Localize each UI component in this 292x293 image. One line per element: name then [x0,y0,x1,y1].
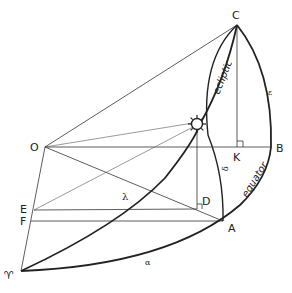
point-label-K: K [233,151,241,164]
angle-label-alpha: α [145,258,151,267]
hour-circle-delta [207,25,237,221]
angle-label-delta: δ [221,165,231,171]
angle-label-epsilon: ε [268,88,272,97]
right-angle-marker-K [237,141,243,147]
point-label-vernal-equinox: ♈ [4,269,14,282]
line-O-sun [45,123,193,147]
angle-label-lambda: λ [122,191,129,202]
point-label-C: C [232,9,240,22]
curve-label-ecliptic: ecliptic [211,58,235,96]
diagram-canvas: C O B K D A E F ♈ λ δ α ε ecliptic equat… [0,0,292,293]
sun-icon [188,115,206,133]
line-E-sun [34,127,193,210]
celestial-sphere-diagram: C O B K D A E F ♈ λ δ α ε ecliptic equat… [0,0,292,293]
point-label-D: D [202,195,210,208]
line-E-D [34,209,197,210]
ecliptic-curve [21,25,237,271]
point-label-O: O [30,141,39,154]
point-label-B: B [276,142,284,155]
point-label-F: F [20,215,26,228]
point-label-A: A [228,222,236,235]
curve-label-equator: equator [239,159,270,199]
